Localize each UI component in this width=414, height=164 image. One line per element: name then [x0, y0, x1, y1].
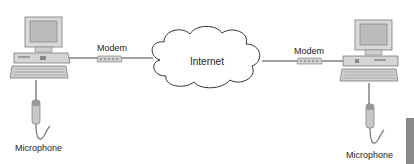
modem-icon-right — [297, 58, 322, 64]
internet-label: Internet — [190, 56, 224, 67]
modem-icon-left — [97, 56, 122, 62]
desktop-computer-icon-left — [10, 17, 70, 78]
network-diagram — [0, 0, 414, 164]
desktop-computer-icon-right — [340, 20, 398, 81]
modem-label-left: Modem — [97, 43, 127, 53]
modem-label-right: Modem — [294, 46, 324, 56]
page-edge-tab — [406, 118, 414, 164]
microphone-icon-left — [32, 100, 50, 139]
microphone-label-left: Microphone — [15, 143, 62, 153]
microphone-label-right: Microphone — [346, 150, 393, 160]
microphone-icon-right — [366, 104, 384, 143]
